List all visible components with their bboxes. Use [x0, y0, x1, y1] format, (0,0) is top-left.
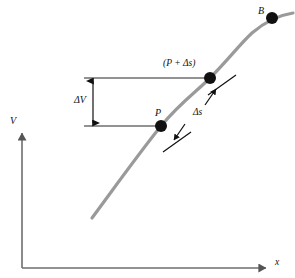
x-axis-label: x: [275, 258, 279, 268]
point-label-p: P: [155, 108, 161, 118]
delta-v-label: ΔV: [74, 95, 86, 105]
figure-canvas: B P (P + Δs) ΔV Δs V x: [0, 0, 295, 278]
point-label-b: B: [258, 6, 264, 16]
point-B: [266, 12, 278, 24]
delta-s-upper-leader: [205, 89, 216, 105]
y-axis-label: V: [10, 116, 16, 126]
delta-s-label: Δs: [193, 108, 202, 118]
figure-graphic: [0, 0, 295, 278]
point-P-plus-ds: [204, 72, 216, 84]
point-P: [155, 120, 167, 132]
point-label-p-plus-delta-s: (P + Δs): [163, 59, 195, 69]
